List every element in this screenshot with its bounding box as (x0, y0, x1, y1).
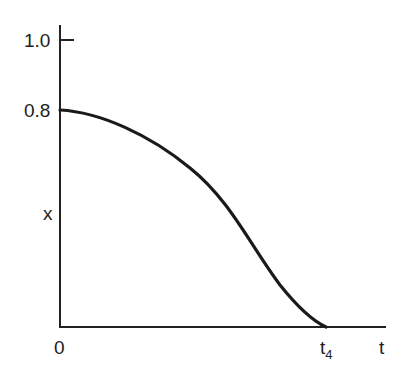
t4-sub: 4 (325, 347, 332, 362)
t4-label: t4 (320, 338, 333, 361)
data-curve (60, 110, 326, 327)
y-tick-label-08: 0.8 (24, 101, 50, 120)
y-axis-label: x (43, 204, 53, 223)
chart-plot (0, 0, 405, 379)
x-axis-label: t (379, 338, 384, 357)
origin-label: 0 (54, 338, 65, 357)
y-tick-label-1: 1.0 (24, 31, 50, 50)
